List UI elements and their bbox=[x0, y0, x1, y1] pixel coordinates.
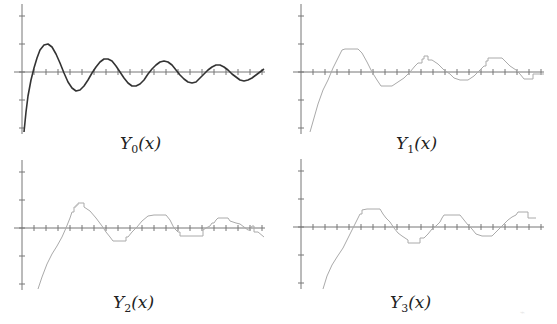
caption-argument: (x) bbox=[408, 292, 431, 312]
data-curve bbox=[323, 209, 536, 289]
caption-base: Y bbox=[390, 292, 401, 312]
caption-y3: Y3(x) bbox=[390, 292, 431, 315]
faint-watermark-glyph: ⌁ bbox=[520, 308, 530, 314]
chart-panel-y3 bbox=[0, 0, 557, 324]
plot-y3 bbox=[0, 0, 557, 324]
